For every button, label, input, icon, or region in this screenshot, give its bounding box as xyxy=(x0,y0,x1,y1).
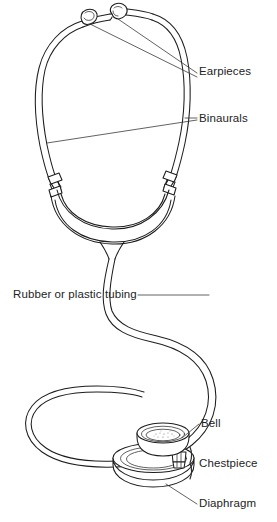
leader-binaurals-left xyxy=(47,120,197,143)
label-binaurals: Binaurals xyxy=(199,113,248,125)
label-chestpiece: Chestpiece xyxy=(199,458,258,470)
label-diaphragm: Diaphragm xyxy=(199,498,256,510)
label-rubber-or-plastic-tubing: Rubber or plastic tubing xyxy=(13,289,137,301)
leader-earpieces-left xyxy=(90,24,197,77)
leader-earpieces-right xyxy=(118,19,197,73)
label-earpieces: Earpieces xyxy=(199,66,251,78)
label-bell: Bell xyxy=(201,418,221,430)
binaurals-graphic xyxy=(35,14,190,188)
stethoscope-diagram: Earpieces Binaurals Rubber or plastic tu… xyxy=(0,0,277,522)
chestpiece-graphic xyxy=(113,423,194,487)
connector-right xyxy=(163,171,177,195)
bell-graphic xyxy=(137,423,189,456)
y-junction xyxy=(100,242,124,259)
stethoscope-illustration xyxy=(0,0,277,522)
leader-diaphragm xyxy=(166,484,197,504)
earpiece-right xyxy=(110,3,127,19)
earpiece-left xyxy=(81,9,97,24)
yoke-graphic xyxy=(51,190,175,244)
